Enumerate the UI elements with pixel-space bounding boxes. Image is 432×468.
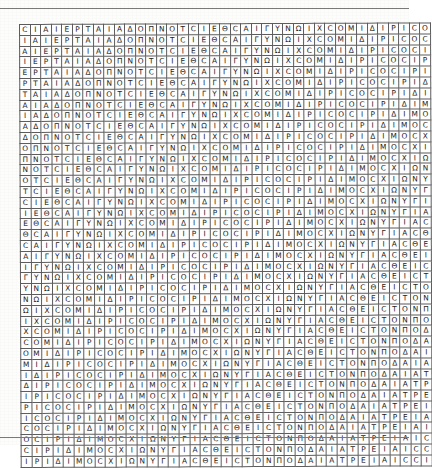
letter-cell: M xyxy=(126,402,137,413)
letter-cell: I xyxy=(189,240,200,251)
letter-cell: T xyxy=(83,121,94,132)
letter-cell: O xyxy=(41,154,52,165)
letter-cell: Π xyxy=(337,390,348,401)
letter-cell: A xyxy=(51,68,62,79)
letter-cell: I xyxy=(178,251,189,262)
letter-cell: T xyxy=(146,56,157,67)
letter-cell: O xyxy=(168,197,179,208)
letter-cell: Θ xyxy=(52,197,63,208)
letter-cell: N xyxy=(104,208,115,219)
letter-cell: P xyxy=(388,88,399,99)
letter-cell: O xyxy=(262,185,273,196)
letter-cell: Θ xyxy=(337,315,348,326)
letter-cell: P xyxy=(30,68,41,79)
letter-cell: A xyxy=(390,444,401,455)
letter-cell: I xyxy=(357,45,368,56)
letter-grid-row: IΔIPICOCIPIΔIMOCXIΩNYΓIACΘEICTONΠOΔAIAT xyxy=(21,368,432,380)
letter-cell: X xyxy=(31,316,42,327)
letter-cell: I xyxy=(420,88,431,99)
letter-cell: M xyxy=(399,120,410,131)
letter-cell: M xyxy=(73,305,84,316)
letter-cell: Θ xyxy=(305,347,316,358)
letter-cell: T xyxy=(94,111,105,122)
letter-cell: I xyxy=(178,153,189,164)
letter-cell: Γ xyxy=(200,412,211,423)
letter-cell: Π xyxy=(146,24,157,35)
letter-cell: O xyxy=(93,67,104,78)
letter-cell: I xyxy=(52,359,63,370)
letter-cell: P xyxy=(294,185,305,196)
letter-cell: I xyxy=(137,359,148,370)
letter-cell: C xyxy=(315,120,326,131)
letter-cell: C xyxy=(167,45,178,56)
letter-cell: Θ xyxy=(178,67,189,78)
letter-cell: I xyxy=(51,24,62,35)
letter-cell: Π xyxy=(421,304,432,315)
letter-cell: I xyxy=(30,24,41,35)
letter-cell: Δ xyxy=(252,142,263,153)
letter-cell: C xyxy=(209,45,220,56)
letter-cell: I xyxy=(346,34,357,45)
letter-cell: O xyxy=(83,78,94,89)
letter-cell: I xyxy=(209,121,220,132)
letter-cell: C xyxy=(178,261,189,272)
letter-cell: M xyxy=(105,424,116,435)
letter-cell: T xyxy=(72,35,83,46)
letter-cell: I xyxy=(158,315,169,326)
letter-cell: Δ xyxy=(63,445,74,456)
letter-cell: C xyxy=(314,34,325,45)
letter-cell: Y xyxy=(272,23,283,34)
letter-cell: I xyxy=(115,164,126,175)
letter-cell: T xyxy=(379,412,390,423)
letter-cell: I xyxy=(84,348,95,359)
letter-cell: N xyxy=(31,284,42,295)
letter-cell: Δ xyxy=(41,111,52,122)
letter-cell: I xyxy=(94,132,105,143)
letter-cell: C xyxy=(411,444,422,455)
letter-cell: O xyxy=(168,369,179,380)
letter-cell: E xyxy=(188,45,199,56)
letter-cell: O xyxy=(347,358,358,369)
letter-cell: A xyxy=(221,412,232,423)
letter-cell: I xyxy=(20,57,31,68)
letter-cell: C xyxy=(116,348,127,359)
letter-cell: M xyxy=(168,359,179,370)
letter-cell: E xyxy=(41,46,52,57)
letter-cell: I xyxy=(231,175,242,186)
letter-cell: C xyxy=(325,110,336,121)
letter-cell: C xyxy=(94,121,105,132)
letter-cell: I xyxy=(200,423,211,434)
letter-cell: Ω xyxy=(73,251,84,262)
letter-cell: Δ xyxy=(316,434,327,445)
letter-cell: O xyxy=(326,380,337,391)
letter-cell: I xyxy=(51,78,62,89)
letter-cell: C xyxy=(293,56,304,67)
letter-cell: I xyxy=(221,272,232,283)
letter-cell: X xyxy=(326,228,337,239)
letter-cell: P xyxy=(63,359,74,370)
letter-cell: I xyxy=(367,34,378,45)
letter-cell: I xyxy=(263,304,274,315)
letter-cell: I xyxy=(189,305,200,316)
letter-cell: O xyxy=(379,358,390,369)
letter-cell: I xyxy=(231,240,242,251)
letter-cell: P xyxy=(199,218,210,229)
letter-cell: I xyxy=(304,121,315,132)
letter-cell: O xyxy=(421,314,432,325)
letter-cell: Π xyxy=(62,111,73,122)
letter-cell: O xyxy=(389,142,400,153)
letter-cell: I xyxy=(336,174,347,185)
letter-cell: P xyxy=(346,66,357,77)
letter-cell: I xyxy=(31,402,42,413)
letter-cell: Δ xyxy=(93,57,104,68)
letter-cell: O xyxy=(200,337,211,348)
letter-cell: I xyxy=(400,271,411,282)
letter-cell: O xyxy=(21,348,32,359)
letter-cell: Δ xyxy=(21,381,32,392)
letter-cell: I xyxy=(30,46,41,57)
letter-cell: Y xyxy=(252,347,263,358)
letter-cell: X xyxy=(63,283,74,294)
letter-cell: X xyxy=(116,445,127,456)
letter-cell: I xyxy=(179,391,190,402)
letter-cell: N xyxy=(83,229,94,240)
